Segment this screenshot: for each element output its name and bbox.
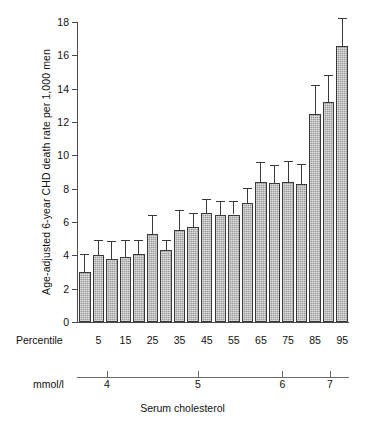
- error-bar-stem: [233, 201, 234, 214]
- error-bar-stem: [342, 18, 343, 46]
- bar[interactable]: [120, 257, 132, 322]
- bar-group[interactable]: [295, 22, 309, 322]
- bar-group[interactable]: [335, 22, 349, 322]
- bar[interactable]: [228, 215, 240, 323]
- bar[interactable]: [79, 272, 91, 322]
- error-bar-stem: [220, 201, 221, 215]
- bar-group[interactable]: [322, 22, 336, 322]
- y-tick-label: 8: [63, 183, 69, 195]
- mmol-tick-label: 5: [195, 378, 201, 390]
- error-bar-cap: [94, 240, 103, 241]
- percentile-tick-label: 45: [201, 334, 213, 346]
- bar[interactable]: [309, 114, 321, 322]
- mmol-axis-label: mmol/l: [33, 378, 64, 390]
- y-tick-label: 12: [57, 116, 69, 128]
- error-bar-stem: [260, 162, 261, 182]
- bar[interactable]: [201, 213, 213, 322]
- error-bar-cap: [202, 199, 211, 200]
- bar-group[interactable]: [214, 22, 228, 322]
- error-bar-stem: [179, 210, 180, 231]
- error-bar-cap: [134, 240, 143, 241]
- mmol-tick-mark: [282, 371, 283, 377]
- error-bar-cap: [311, 85, 320, 86]
- percentile-tick-label: 75: [282, 334, 294, 346]
- y-tick-mark: [72, 322, 77, 323]
- bar[interactable]: [296, 184, 308, 322]
- bar-group[interactable]: [200, 22, 214, 322]
- bar[interactable]: [160, 250, 172, 323]
- percentile-tick-label: 15: [120, 334, 132, 346]
- x-axis-line: [77, 322, 349, 323]
- y-tick-mark: [72, 55, 77, 56]
- mmol-tick-label: 6: [279, 378, 285, 390]
- bar[interactable]: [282, 182, 294, 322]
- bar-group[interactable]: [78, 22, 92, 322]
- y-tick-label: 16: [57, 49, 69, 61]
- bar-group[interactable]: [146, 22, 160, 322]
- bar-group[interactable]: [227, 22, 241, 322]
- mmol-axis: mmol/l 4567: [0, 368, 365, 394]
- bar[interactable]: [106, 259, 118, 322]
- error-bar-stem: [301, 164, 302, 184]
- bar[interactable]: [174, 230, 186, 322]
- bar[interactable]: [242, 203, 254, 322]
- plot-area: 024681012141618: [77, 22, 349, 322]
- mmol-tick-mark: [107, 371, 108, 377]
- error-bar-stem: [152, 215, 153, 234]
- bar-group[interactable]: [173, 22, 187, 322]
- mmol-tick-mark: [198, 371, 199, 377]
- bar[interactable]: [215, 215, 227, 322]
- y-tick-label: 2: [63, 283, 69, 295]
- error-bar-cap: [270, 165, 279, 166]
- bar-group[interactable]: [119, 22, 133, 322]
- error-bar-stem: [288, 161, 289, 182]
- bar-series: [78, 22, 349, 322]
- y-tick-label: 10: [57, 149, 69, 161]
- error-bar-cap: [284, 161, 293, 162]
- y-tick-mark: [72, 22, 77, 23]
- error-bar-stem: [111, 241, 112, 259]
- bar[interactable]: [336, 46, 348, 322]
- error-bar-cap: [324, 75, 333, 76]
- y-tick-label: 0: [63, 316, 69, 328]
- bar-group[interactable]: [254, 22, 268, 322]
- bar-group[interactable]: [132, 22, 146, 322]
- bar[interactable]: [93, 255, 105, 323]
- y-tick-label: 6: [63, 216, 69, 228]
- y-tick-mark: [72, 89, 77, 90]
- bar-group[interactable]: [281, 22, 295, 322]
- bar-group[interactable]: [186, 22, 200, 322]
- bar[interactable]: [323, 102, 335, 322]
- error-bar-cap: [107, 241, 116, 242]
- bar-group[interactable]: [308, 22, 322, 322]
- error-bar-stem: [98, 240, 99, 255]
- bar-group[interactable]: [159, 22, 173, 322]
- bar[interactable]: [269, 183, 281, 322]
- percentile-tick-label: 85: [309, 334, 321, 346]
- bar-group[interactable]: [268, 22, 282, 322]
- error-bar-cap: [121, 240, 130, 241]
- bar[interactable]: [255, 182, 267, 322]
- error-bar-stem: [206, 199, 207, 213]
- chart-caption: Serum cholesterol: [0, 402, 365, 414]
- bar-group[interactable]: [92, 22, 106, 322]
- bar-group[interactable]: [105, 22, 119, 322]
- bar[interactable]: [187, 227, 199, 322]
- percentile-tick-label: 25: [147, 334, 159, 346]
- y-tick-mark: [72, 222, 77, 223]
- error-bar-stem: [166, 240, 167, 250]
- bar[interactable]: [147, 234, 159, 322]
- percentile-axis-label: Percentile: [16, 334, 63, 346]
- mmol-tick-label: 7: [327, 378, 333, 390]
- error-bar-cap: [243, 188, 252, 189]
- bar-group[interactable]: [241, 22, 255, 322]
- percentile-tick-label: 55: [228, 334, 240, 346]
- error-bar-stem: [274, 165, 275, 183]
- y-tick-mark: [72, 189, 77, 190]
- error-bar-cap: [256, 162, 265, 163]
- error-bar-cap: [216, 201, 225, 202]
- percentile-axis: Percentile 5152535455565758595: [0, 334, 365, 350]
- error-bar-stem: [84, 254, 85, 272]
- error-bar-cap: [148, 215, 157, 216]
- bar[interactable]: [133, 254, 145, 322]
